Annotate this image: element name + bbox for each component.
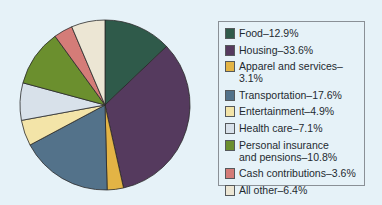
swatch bbox=[225, 28, 235, 39]
legend-item-all-other: All other–6.4% bbox=[225, 184, 364, 196]
swatch bbox=[225, 140, 235, 151]
swatch bbox=[225, 168, 235, 179]
swatch bbox=[225, 90, 235, 101]
swatch bbox=[225, 185, 235, 196]
legend: Food–12.9% Housing–33.6% Apparel and ser… bbox=[218, 21, 365, 186]
swatch bbox=[225, 123, 235, 134]
legend-item-apparel: Apparel and services–3.1% bbox=[225, 60, 364, 84]
legend-item-health-care: Health care–7.1% bbox=[225, 122, 364, 134]
legend-item-transportation: Transportation–17.6% bbox=[225, 89, 364, 101]
swatch bbox=[225, 45, 235, 56]
legend-item-food: Food–12.9% bbox=[225, 27, 364, 39]
swatch bbox=[225, 61, 235, 72]
legend-item-entertainment: Entertainment–4.9% bbox=[225, 105, 364, 117]
legend-item-cash-contributions: Cash contributions–3.6% bbox=[225, 167, 364, 179]
legend-item-personal-insurance: Personal insurance and pensions–10.8% bbox=[225, 139, 364, 163]
swatch bbox=[225, 106, 235, 117]
pie-chart bbox=[0, 0, 215, 205]
legend-item-housing: Housing–33.6% bbox=[225, 44, 364, 56]
